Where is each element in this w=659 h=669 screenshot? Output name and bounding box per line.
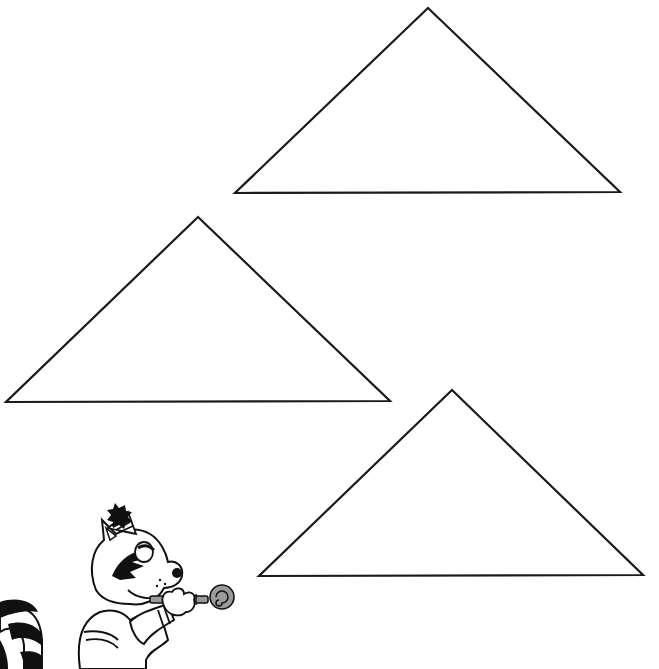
raccoon-illustration [0, 503, 234, 669]
raccoon-hand [162, 588, 194, 615]
triangle-bottom-right [259, 390, 643, 576]
triangle-middle-left [6, 217, 390, 402]
worksheet-canvas [0, 0, 659, 669]
triangle-top-right [235, 8, 620, 193]
raccoon-nose [172, 568, 182, 578]
raccoon-tail-icon [0, 600, 42, 669]
worksheet-svg [0, 0, 659, 669]
party-hat-icon [107, 503, 136, 534]
